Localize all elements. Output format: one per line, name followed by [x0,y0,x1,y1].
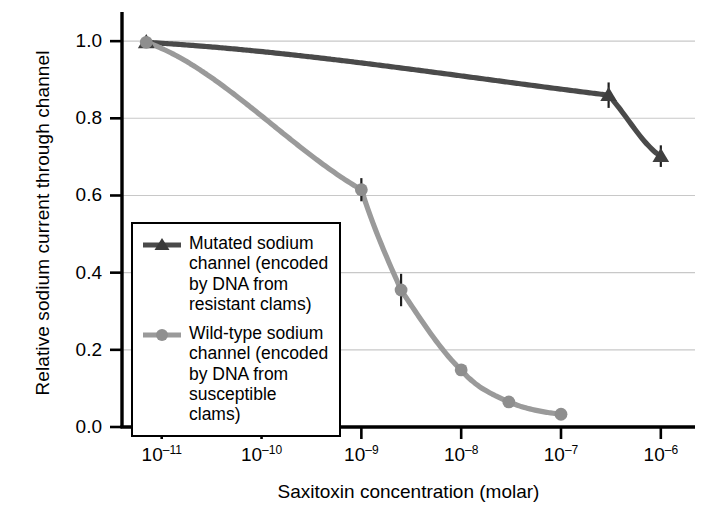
data-point-wild-type [355,183,368,196]
x-tick-label: 10–7 [544,444,579,466]
data-point-wild-type [140,36,153,49]
x-axis-title: Saxitoxin concentration (molar) [122,481,695,503]
chart-figure: 0.00.20.40.60.81.0 10–1110–1010–910–810–… [0,0,712,515]
y-tick-label: 1.0 [48,30,102,52]
data-point-wild-type [502,396,515,409]
triangle-marker-icon [142,234,182,256]
x-tick-label: 10–8 [444,444,479,466]
data-point-wild-type [395,284,408,297]
y-tick-label: 0.2 [48,339,102,361]
y-tick-label: 0.6 [48,184,102,206]
curve-mutated [146,42,661,156]
x-tick-label: 10–11 [142,444,182,466]
legend-label-wildtype: Wild-type sodium channel (encoded by DNA… [189,323,329,424]
circle-marker-icon [142,324,182,346]
y-axis-title: Relative sodium current through channel [32,13,54,433]
y-tick-label: 0.0 [48,416,102,438]
legend-entry-mutated: Mutated sodium channel (encoded by DNA f… [142,233,329,314]
legend-entry-wildtype: Wild-type sodium channel (encoded by DNA… [142,323,329,424]
x-tick-label: 10–9 [344,444,379,466]
plot-area [0,0,712,515]
y-tick-label: 0.4 [48,262,102,284]
data-point-wild-type [555,408,568,421]
x-tick-label: 10–10 [241,444,282,466]
legend-label-mutated: Mutated sodium channel (encoded by DNA f… [189,233,329,314]
y-tick-label: 0.8 [48,107,102,129]
chart-legend: Mutated sodium channel (encoded by DNA f… [131,222,341,437]
data-point-wild-type [455,363,468,376]
x-tick-label: 10–6 [644,444,679,466]
